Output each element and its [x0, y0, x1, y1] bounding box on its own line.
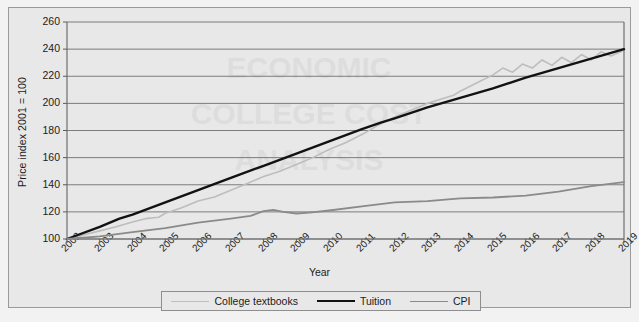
- legend-swatch-icon: [317, 300, 355, 302]
- legend-label: CPI: [453, 295, 471, 307]
- plot-area: ECONOMICCOLLEGE COSTANALYSIS: [9, 8, 630, 307]
- legend-item[interactable]: College textbooks: [171, 295, 297, 307]
- legend-swatch-icon: [171, 301, 209, 302]
- chart-svg: ECONOMICCOLLEGE COSTANALYSIS: [9, 8, 632, 309]
- series-line-cpi: [67, 182, 624, 239]
- legend-item[interactable]: Tuition: [317, 295, 391, 307]
- legend-label: College textbooks: [214, 295, 297, 307]
- legend-item[interactable]: CPI: [410, 295, 471, 307]
- chart-legend: College textbooksTuitionCPI: [161, 291, 481, 311]
- legend-label: Tuition: [360, 295, 391, 307]
- svg-text:COLLEGE COST: COLLEGE COST: [191, 97, 428, 130]
- svg-text:ECONOMIC: ECONOMIC: [227, 51, 392, 84]
- legend-swatch-icon: [410, 301, 448, 302]
- chart-figure: Price index 2001 = 100 Year 260240220200…: [8, 7, 631, 308]
